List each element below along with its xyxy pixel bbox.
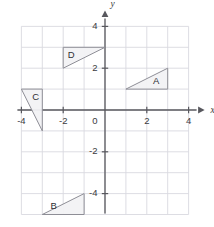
y-tick-label: -2 <box>89 145 97 156</box>
shape-label-b: B <box>51 200 57 211</box>
coordinate-plane-figure: -4-224-4-2240xyABCD <box>0 0 214 227</box>
shape-label-a: A <box>153 75 160 86</box>
y-tick-label: 4 <box>92 20 97 31</box>
coordinate-plane-svg: -4-224-4-2240xyABCD <box>0 0 214 227</box>
y-axis-label: y <box>110 0 116 9</box>
labels: -4-224-4-2240xyABCD <box>17 0 214 211</box>
axis-lines <box>17 10 204 213</box>
y-tick-label: 2 <box>92 62 97 73</box>
y-axis-arrow-icon <box>102 10 109 17</box>
x-axis-label: x <box>210 105 214 115</box>
shape-label-d: D <box>68 49 75 60</box>
x-tick-label: -2 <box>59 115 67 126</box>
x-axis-arrow-icon <box>198 107 205 114</box>
shape-label-c: C <box>32 91 39 102</box>
x-tick-label: 4 <box>186 115 191 126</box>
x-tick-label: -4 <box>17 115 25 126</box>
origin-label: 0 <box>92 115 97 126</box>
y-tick-label: -4 <box>89 187 97 198</box>
x-tick-label: 2 <box>144 115 149 126</box>
